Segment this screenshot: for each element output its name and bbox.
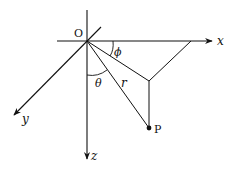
point-p-dot [147,126,152,131]
x-axis-label: x [217,34,224,48]
point-p-label: P [154,123,162,136]
spherical-coordinates-diagram: O x y z P r θ ϕ [0,0,236,170]
y-axis-label: y [21,112,29,126]
z-axis-label: z [90,149,98,163]
radius-label: r [121,76,128,90]
y-axis [14,27,101,115]
theta-arc [87,70,107,75]
phi-arc [110,41,113,56]
theta-label: θ [95,77,102,90]
phi-label: ϕ [114,46,122,59]
projection-to-x-line [149,41,191,81]
origin-label: O [74,27,83,40]
